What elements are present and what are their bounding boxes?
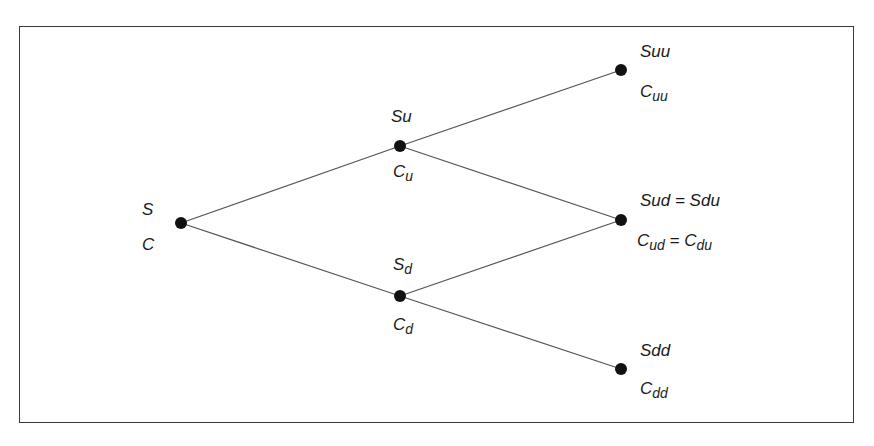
label-root-stock: S [142,201,153,218]
tree-edge [181,223,400,296]
label-updown-stock: Sud = Sdu [640,192,720,209]
tree-edge [400,296,621,369]
label-down-stock: Sd [393,256,412,273]
tree-edge [181,146,400,223]
label-downdown-option: Cdd [640,380,668,397]
label-root-option: C [142,236,154,253]
tree-edge [400,220,621,296]
tree-edge [400,146,621,220]
tree-node-uu [615,64,627,76]
binomial-tree [0,0,874,446]
label-upup-option: Cuu [640,83,668,100]
tree-node-u [394,140,406,152]
tree-node-ud [615,214,627,226]
label-up-stock: Su [391,108,412,125]
label-up-option: Cu [393,163,413,180]
label-updown-option: Cud = Cdu [637,232,712,249]
tree-node-root [175,217,187,229]
tree-node-dd [615,363,627,375]
label-downdown-stock: Sdd [640,342,670,359]
label-upup-stock: Suu [640,43,670,60]
label-down-option: Cd [393,316,413,333]
tree-node-d [394,290,406,302]
tree-edge [400,70,621,146]
